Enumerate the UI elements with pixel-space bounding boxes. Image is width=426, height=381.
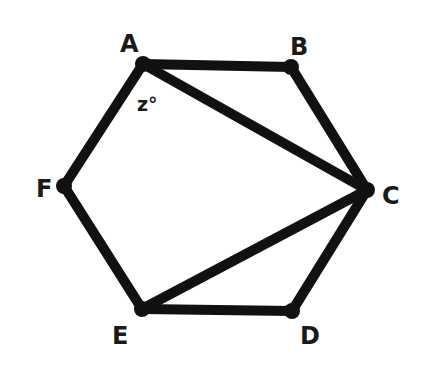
- vertex-A: [135, 56, 151, 72]
- vertex-points: [56, 56, 375, 319]
- vertex-C: [359, 182, 375, 198]
- vertex-label-F: F: [36, 175, 52, 203]
- vertex-F: [56, 178, 72, 194]
- edge-DE: [142, 309, 292, 311]
- edge-EF: [64, 186, 142, 309]
- hexagon-edges: [64, 64, 367, 311]
- vertex-labels: ABCDEF: [36, 30, 400, 350]
- vertex-label-B: B: [290, 33, 308, 61]
- vertex-D: [284, 303, 300, 319]
- hexagon-diagram: ABCDEF z°: [0, 0, 426, 381]
- edge-AB: [143, 64, 291, 67]
- vertex-B: [283, 59, 299, 75]
- vertex-label-D: D: [300, 322, 320, 350]
- vertex-E: [134, 301, 150, 317]
- angle-label-z: z°: [137, 93, 158, 115]
- vertex-label-E: E: [112, 322, 128, 350]
- edge-FA: [64, 64, 143, 186]
- vertex-label-C: C: [382, 182, 400, 210]
- vertex-label-A: A: [120, 30, 139, 58]
